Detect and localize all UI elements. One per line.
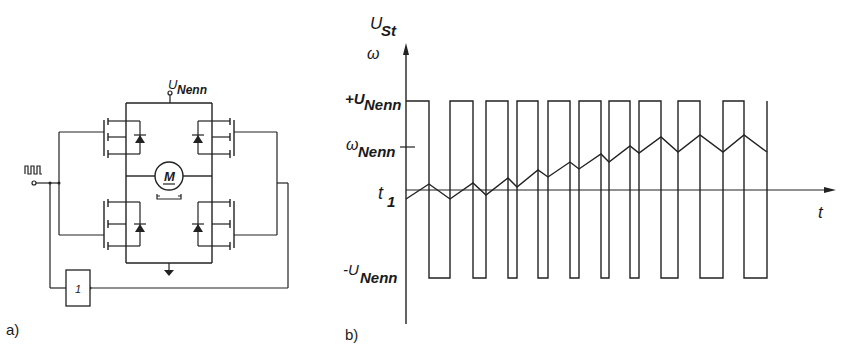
mosfet-lower-right [192,199,277,250]
y-axis-label-sub: St [381,22,397,39]
mosfet-upper-right [192,118,277,158]
input-terminal [32,181,36,185]
motor-brush-icon [157,194,181,199]
h-bridge-circuit: M [25,77,288,306]
omega-level-sub: Nenn [358,143,396,160]
motor-label: M [164,169,176,184]
diode-icon [135,224,145,232]
mosfet-upper-left [59,118,146,158]
x-axis-label: t [818,203,824,222]
diode-icon [193,135,203,143]
neg-level-sub: Nenn [360,269,398,286]
t1-sub: 1 [387,193,395,210]
x-axis-arrow-icon [824,187,836,193]
figure-canvas: M [0,0,849,357]
diode-icon [135,135,145,143]
inverter-label: 1 [75,283,81,295]
t1-main: t [378,183,384,203]
pos-level-sub: Nenn [364,96,402,113]
mosfet-lower-left [59,199,146,250]
y-axis-arrow-icon [403,43,409,55]
panel-b-label: b) [345,326,358,343]
pulse-train-icon [25,166,42,174]
neg-level-main: -U [343,261,359,278]
pos-level-main: +U [345,90,366,107]
y-axis-label-omega: ω [367,45,379,62]
omega-level-main: ω [346,136,358,153]
waveform-chart: U St ω +U Nenn ω Nenn t 1 -U Nenn t [343,14,836,324]
diode-icon [193,224,203,232]
panel-a-label: a) [6,321,19,338]
ground-icon [164,270,174,276]
supply-label-sub: Nenn [177,83,207,97]
